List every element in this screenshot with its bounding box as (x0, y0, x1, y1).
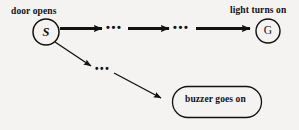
ellipsis-top-2: ••• (173, 22, 189, 33)
diagram-vector-layer (0, 0, 299, 130)
label-door-opens: door opens (11, 7, 56, 17)
node-goal-letter: G (258, 25, 278, 37)
edge-start-to-branch-ellipsis (55, 42, 91, 66)
ellipsis-branch-1: ••• (95, 64, 110, 74)
label-buzzer-goes-on: buzzer goes on (185, 95, 246, 105)
diagram-canvas: S G ••• ••• ••• door opens light turns o… (0, 0, 299, 130)
ellipsis-top-1: ••• (106, 22, 122, 33)
label-light-turns-on: light turns on (230, 6, 286, 16)
edge-branch-ellipsis-to-buzzer (114, 73, 161, 98)
node-start-letter: S (36, 26, 56, 39)
